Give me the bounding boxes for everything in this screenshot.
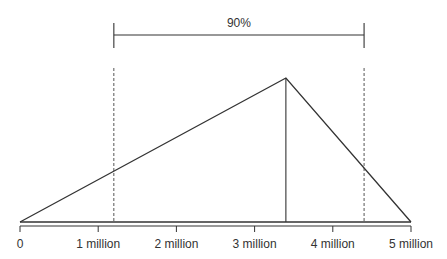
reference-lines: [114, 68, 364, 222]
triangular-distribution-chart: 90% 01 million2 million3 million4 millio…: [0, 0, 447, 259]
x-tick-label: 3 million: [233, 237, 277, 251]
bracket-label: 90%: [227, 16, 251, 30]
distribution-line: [20, 78, 411, 222]
x-axis: 01 million2 million3 million4 million5 m…: [17, 222, 433, 251]
x-tick-label: 0: [17, 237, 24, 251]
interval-bracket: 90%: [114, 16, 364, 48]
x-tick-label: 5 million: [389, 237, 433, 251]
x-tick-label: 1 million: [76, 237, 120, 251]
distribution-series: [20, 78, 411, 222]
x-tick-label: 4 million: [311, 237, 355, 251]
x-tick-label: 2 million: [154, 237, 198, 251]
